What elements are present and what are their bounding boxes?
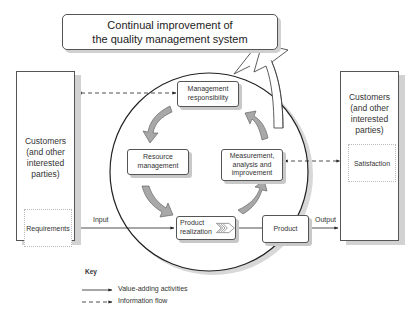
requirements-label: Requirements — [26, 225, 70, 232]
management-responsibility-box: Management responsibility — [177, 81, 239, 107]
customers-left-box: Customers (and other interested parties)… — [16, 71, 75, 241]
key-value-adding-label: Value-adding activities — [118, 285, 188, 292]
title-line-1: Continual improvement of — [107, 18, 232, 32]
key-title: Key — [85, 268, 97, 275]
title-line-2: the quality management system — [92, 32, 247, 46]
process-chevron-icon — [215, 221, 235, 235]
customers-left-label: Customers (and other interested parties) — [17, 136, 74, 180]
key-information-flow-label: Information flow — [118, 297, 167, 304]
customers-right-label: Customers (and other interested parties) — [341, 92, 398, 136]
input-label: Input — [93, 216, 109, 223]
product-label: Product — [273, 225, 297, 234]
output-label: Output — [315, 216, 336, 223]
product-box: Product — [262, 215, 309, 243]
requirements-box: Requirements — [24, 209, 72, 247]
customers-right-box: Customers (and other interested parties)… — [340, 71, 399, 241]
continual-improvement-title: Continual improvement of the quality man… — [62, 14, 278, 50]
satisfaction-label: Satisfaction — [354, 160, 390, 167]
measurement-analysis-box: Measurement, analysis and improvement — [221, 149, 283, 181]
resource-management-box: Resource management — [127, 149, 189, 175]
satisfaction-box: Satisfaction — [348, 144, 396, 182]
product-realization-box: Product realization — [176, 216, 236, 240]
